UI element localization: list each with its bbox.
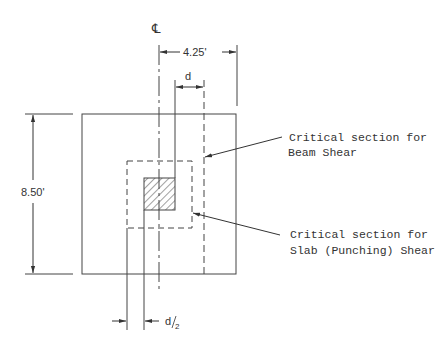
- dim-full-width: 8.50': [21, 186, 45, 198]
- punching-shear-note-line1: Critical section for: [290, 228, 428, 241]
- centerline-symbol: ℄: [151, 21, 161, 36]
- dim-d: d: [185, 70, 191, 82]
- punching-shear-note-line2: Slab (Punching) Shear: [290, 244, 435, 257]
- beam-shear-leader: [205, 137, 282, 157]
- dim-d2-den: 2: [175, 322, 180, 331]
- dim-d2-num: d: [165, 315, 171, 327]
- dim-half-width: 4.25': [183, 46, 207, 58]
- beam-shear-note-line1: Critical section for: [289, 131, 427, 144]
- footing-diagram: ℄ 4.25' d 8.50' d 2 Critical section for…: [0, 0, 444, 350]
- column: [144, 178, 175, 210]
- beam-shear-note-line2: Beam Shear: [288, 146, 357, 159]
